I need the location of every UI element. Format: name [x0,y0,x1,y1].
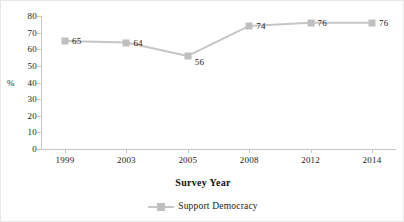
data-point-label: 64 [133,38,142,48]
x-axis-tick-mark [126,149,127,153]
data-point-marker [246,22,253,29]
x-axis-tick-mark [311,149,312,153]
y-axis-tick-label: 50 [28,61,37,71]
y-axis-tick-label: 10 [28,127,37,137]
data-point-label: 74 [256,21,265,31]
x-axis-line [41,149,396,150]
x-axis-tick-mark [188,149,189,153]
x-axis-tick-label: 2014 [363,155,382,165]
x-axis-tick-label: 2005 [178,155,197,165]
data-point-label: 76 [318,18,327,28]
x-axis-tick-label: 1999 [56,155,75,165]
data-point-marker [184,52,191,59]
x-axis-tick-mark [372,149,373,153]
data-point-label: 76 [379,18,388,28]
data-point-label: 65 [72,36,81,46]
chart-legend: Support Democracy [1,201,404,211]
y-axis-tick-label: 60 [28,44,37,54]
x-axis-tick-mark [65,149,66,153]
x-axis-tick-label: 2012 [301,155,320,165]
legend-square-marker-icon [148,202,174,211]
series-line-support-democracy [1,1,404,222]
x-axis-tick-mark [249,149,250,153]
y-axis-tick-label: 70 [28,28,37,38]
legend-item-label: Support Democracy [178,201,258,211]
y-axis-line [41,16,42,149]
x-axis-tick-label: 2008 [240,155,259,165]
y-axis-title: % [7,78,15,88]
x-axis-title: Survey Year [1,177,404,188]
y-axis-tick-label: 80 [28,11,37,21]
data-point-label: 56 [195,57,204,67]
data-point-marker [62,37,69,44]
x-axis-tick-label: 2003 [117,155,136,165]
y-axis-tick-labels: 80706050403020100 [1,1,37,222]
y-axis-tick-label: 30 [28,94,37,104]
y-axis-tick-label: 40 [28,78,37,88]
y-axis-tick-label: 20 [28,111,37,121]
chart-figure: 80706050403020100 % 19992003200520082012… [0,0,404,222]
data-point-marker [369,19,376,26]
data-point-marker [123,39,130,46]
data-point-marker [307,19,314,26]
